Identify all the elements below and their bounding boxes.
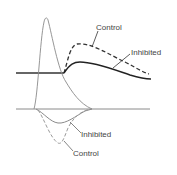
upper-control-label: Control — [96, 23, 122, 32]
upper-inhibited-curve — [64, 62, 151, 79]
lower-inhibited-label: Inhibited — [81, 130, 111, 139]
diagram-canvas: Control Inhibited Inhibited Control — [0, 0, 177, 175]
lower-control-leader — [64, 141, 73, 151]
upper-control-leader — [92, 31, 98, 47]
upper-inhibited-leader — [113, 54, 130, 68]
lower-control-label: Control — [73, 149, 99, 158]
upper-inhibited-label: Inhibited — [131, 48, 161, 57]
lower-inhibited-leader — [70, 122, 81, 133]
spike-curve — [34, 18, 92, 109]
